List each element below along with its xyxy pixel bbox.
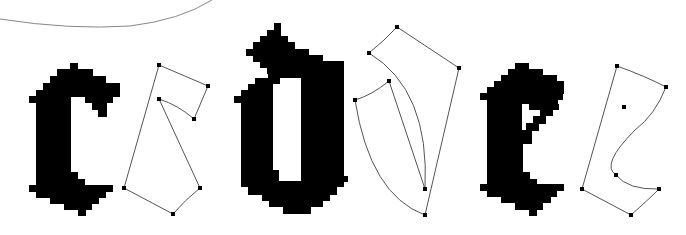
outline-e bbox=[580, 64, 668, 217]
glyph-figure bbox=[0, 0, 686, 235]
decorative-arc bbox=[0, 0, 212, 27]
outline-c bbox=[122, 63, 210, 216]
bitmap-c bbox=[29, 63, 120, 216]
bitmap-d bbox=[234, 23, 348, 214]
bitmap-e bbox=[480, 63, 564, 216]
outline-d bbox=[353, 25, 461, 217]
